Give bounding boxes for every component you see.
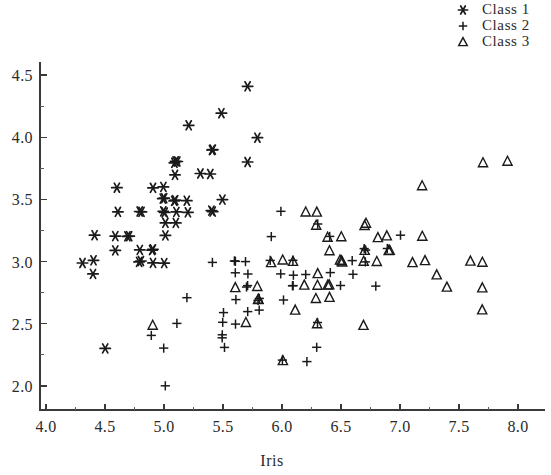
data-point [279,295,288,304]
data-point [160,218,170,227]
data-point [113,207,123,216]
x-tick-label: 4.0 [35,418,56,435]
data-point [348,256,357,265]
triangle-icon [455,34,471,50]
legend: Class 1 Class 2 Class 3 [455,2,551,50]
data-point [231,283,240,292]
data-point [466,256,475,265]
data-point [255,306,264,315]
y-tick-label: 2.0 [12,378,33,395]
data-point [231,295,240,304]
data-point [408,258,417,267]
data-point [503,156,512,165]
x-tick-label: 7.0 [389,418,410,435]
legend-item-class-3[interactable]: Class 3 [455,34,551,50]
data-point [359,256,368,265]
data-point [218,318,227,327]
data-point [231,320,240,329]
data-point [252,133,262,142]
data-point [158,182,168,191]
data-point [184,121,194,130]
data-point [231,257,240,266]
plus-icon [455,18,471,34]
data-point [110,246,120,255]
data-point [302,357,311,366]
plot-canvas: 2.02.53.03.54.04.54.04.55.05.56.06.57.07… [0,0,551,475]
data-point [289,271,298,280]
x-axis-title: Iris [260,452,283,469]
y-tick-label: 3.0 [12,254,33,271]
data-point [88,269,98,278]
data-point [241,257,250,266]
data-point [301,270,310,279]
data-point [336,281,345,290]
data-point [241,318,250,327]
data-point [288,281,297,290]
data-point [159,259,169,268]
data-point [205,169,215,178]
data-point [442,282,451,291]
data-point [278,255,287,264]
data-point [159,344,168,353]
data-point [291,305,300,314]
data-point [300,280,309,289]
data-point [183,208,193,217]
data-point [242,157,252,166]
data-point [313,280,322,289]
asterisk-icon [455,2,471,18]
data-point [432,270,441,279]
data-point [372,257,381,266]
data-point [161,381,170,390]
data-point [110,232,120,241]
data-point [148,258,158,267]
data-point [242,82,252,91]
data-point [276,269,285,278]
y-tick-label: 2.5 [12,316,33,333]
data-point [311,294,320,303]
x-tick-label: 6.0 [271,418,292,435]
data-point [348,270,357,279]
x-tick-label: 6.5 [330,418,351,435]
data-point [135,245,145,254]
data-points [77,82,512,391]
data-point [418,181,427,190]
data-point [170,170,180,179]
data-point [220,343,229,352]
data-point [312,207,321,216]
data-point [359,320,368,329]
data-point [325,246,334,255]
data-point [208,258,217,267]
data-point [276,207,285,216]
data-point [148,183,158,192]
data-point [182,196,192,205]
legend-item-class-1[interactable]: Class 1 [455,2,551,18]
data-point [242,282,251,291]
data-point [112,183,122,192]
data-point [147,331,156,340]
data-point [373,233,382,242]
data-point [337,232,346,241]
data-point [478,158,487,167]
data-point [243,281,252,290]
data-point [216,109,226,118]
legend-item-class-2[interactable]: Class 2 [455,18,551,34]
data-point [382,231,391,240]
data-point [267,258,276,267]
y-tick-label: 4.0 [12,129,33,146]
legend-label-class-1: Class 1 [482,1,530,17]
data-point [326,268,335,277]
data-point [312,343,321,352]
data-point [219,308,228,317]
data-point [195,169,205,178]
data-point [313,269,322,278]
data-point [148,320,157,329]
data-point [89,231,99,240]
data-point [325,292,334,301]
data-point [182,293,191,302]
data-point [253,282,262,291]
data-point [478,283,487,292]
data-point [371,282,380,291]
data-point [217,195,227,204]
x-tick-label: 4.5 [94,418,115,435]
data-point [396,231,405,240]
